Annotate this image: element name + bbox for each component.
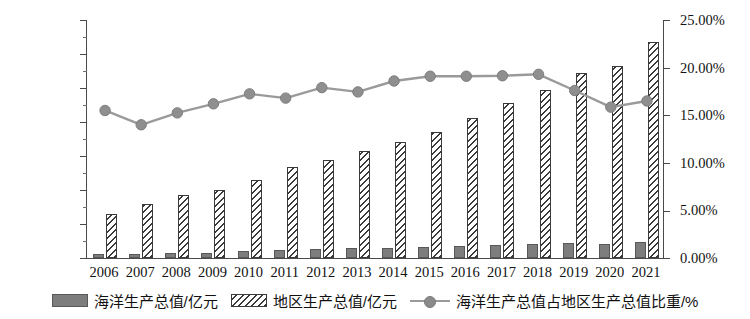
hatched-bar-swatch-icon (231, 294, 267, 307)
bar-column (232, 20, 268, 258)
bar-marine-gdp (635, 242, 646, 258)
bar-column (87, 20, 123, 258)
x-axis-tick-label: 2013 (337, 262, 377, 282)
bar-regional-gdp (576, 73, 587, 258)
x-axis-tick-label: 2017 (481, 262, 521, 282)
plot-area (86, 21, 664, 259)
bar-column (593, 20, 629, 258)
left-axis-tick (80, 122, 87, 123)
bar-marine-gdp (418, 247, 429, 258)
solid-bar-swatch-icon (52, 294, 88, 307)
bar-regional-gdp (503, 103, 514, 258)
right-axis-tick-label: 0.00% (680, 251, 717, 266)
bar-column (484, 20, 520, 258)
bar-marine-gdp (382, 248, 393, 258)
bar-regional-gdp (251, 180, 262, 258)
bar-column (268, 20, 304, 258)
bar-marine-gdp (201, 253, 212, 258)
bar-marine-gdp (129, 254, 140, 258)
bar-column (123, 20, 159, 258)
bar-regional-gdp (395, 142, 406, 258)
legend-item-share-percent: 海洋生产总值占地区生产总值比重/% (410, 290, 699, 311)
bar-column (521, 20, 557, 258)
bar-regional-gdp (106, 214, 117, 258)
bar-regional-gdp (287, 167, 298, 258)
bar-column (629, 20, 665, 258)
bar-marine-gdp (93, 254, 104, 258)
bar-marine-gdp (454, 246, 465, 258)
bar-column (448, 20, 484, 258)
right-axis-tick-label: 5.00% (680, 203, 717, 218)
legend-item-regional-gdp: 地区生产总值/亿元 (231, 290, 397, 311)
bar-column (340, 20, 376, 258)
bar-marine-gdp (346, 248, 357, 258)
legend-label-regional-gdp: 地区生产总值/亿元 (273, 290, 397, 311)
legend-item-marine-gdp: 海洋生产总值/亿元 (52, 290, 218, 311)
left-axis-tick (80, 190, 87, 191)
x-axis-tick-label: 2011 (265, 262, 305, 282)
left-axis-tick (80, 88, 87, 89)
chart-figure: 020000400006000080000100000120000140000 … (0, 0, 750, 319)
bar-marine-gdp (238, 251, 249, 258)
bar-regional-gdp (612, 66, 623, 258)
x-axis-labels: 2006200720082009201020112012201320142015… (86, 262, 664, 284)
bar-marine-gdp (165, 253, 176, 258)
left-axis-tick (80, 156, 87, 157)
right-axis-tick-label: 15.00% (680, 108, 725, 123)
bar-marine-gdp (599, 244, 610, 258)
bar-column (304, 20, 340, 258)
left-axis-tick (80, 224, 87, 225)
bar-regional-gdp (359, 151, 370, 258)
left-axis-tick (80, 20, 87, 21)
bar-regional-gdp (178, 195, 189, 258)
line-marker-swatch-icon (410, 294, 450, 307)
x-axis-tick-label: 2007 (120, 262, 160, 282)
x-axis-tick-label: 2010 (229, 262, 269, 282)
x-axis-tick-label: 2021 (626, 262, 666, 282)
bar-column (159, 20, 195, 258)
left-axis-tick (80, 258, 87, 259)
bar-column (412, 20, 448, 258)
left-axis-tick (80, 54, 87, 55)
bar-regional-gdp (323, 160, 334, 258)
x-axis-tick-label: 2020 (590, 262, 630, 282)
bar-marine-gdp (527, 244, 538, 258)
x-axis-tick-label: 2019 (554, 262, 594, 282)
bar-regional-gdp (467, 118, 478, 258)
bar-column (376, 20, 412, 258)
right-axis-tick (663, 258, 670, 259)
x-axis-tick-label: 2009 (192, 262, 232, 282)
x-axis-tick-label: 2015 (409, 262, 449, 282)
bar-marine-gdp (490, 245, 501, 258)
legend-label-marine-gdp: 海洋生产总值/亿元 (94, 290, 218, 311)
legend-label-share-percent: 海洋生产总值占地区生产总值比重/% (456, 290, 699, 311)
bar-regional-gdp (648, 42, 659, 258)
x-axis-tick-label: 2016 (445, 262, 485, 282)
bar-regional-gdp (431, 132, 442, 258)
bar-marine-gdp (274, 250, 285, 258)
x-axis-tick-label: 2012 (301, 262, 341, 282)
right-axis-tick-label: 25.00% (680, 13, 725, 28)
bar-regional-gdp (142, 204, 153, 258)
x-axis-tick-label: 2014 (373, 262, 413, 282)
bar-regional-gdp (214, 190, 225, 258)
bar-column (557, 20, 593, 258)
right-axis-tick-label: 20.00% (680, 61, 725, 76)
bar-marine-gdp (563, 243, 574, 258)
x-axis-tick-label: 2008 (156, 262, 196, 282)
bar-regional-gdp (540, 90, 551, 258)
x-axis-tick-label: 2006 (84, 262, 124, 282)
right-axis-tick-label: 10.00% (680, 156, 725, 171)
bar-column (195, 20, 231, 258)
x-axis-tick-label: 2018 (518, 262, 558, 282)
bar-marine-gdp (310, 249, 321, 258)
chart-legend: 海洋生产总值/亿元 地区生产总值/亿元 海洋生产总值占地区生产总值比重/% (0, 290, 750, 311)
